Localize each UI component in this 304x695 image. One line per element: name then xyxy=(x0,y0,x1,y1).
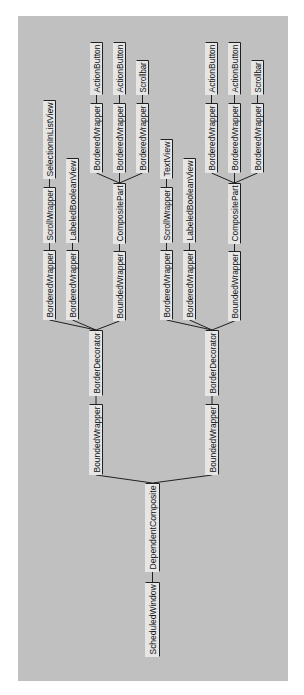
tree-node-scheduled-window[interactable]: ScheduledWindow xyxy=(145,582,160,657)
tree-node-composite-part[interactable]: CompositePart xyxy=(113,183,126,244)
tree-node-bounded-wrapper[interactable]: BoundedWrapper xyxy=(89,404,103,475)
tree-node-action-button[interactable]: ActionButton xyxy=(228,42,241,95)
node-label: BorderedWrapper xyxy=(229,106,240,171)
tree-node-action-button[interactable]: ActionButton xyxy=(113,42,126,95)
tree-node-bordered-wrapper[interactable]: BorderedWrapper xyxy=(251,103,264,173)
node-label: BoundedWrapper xyxy=(91,407,102,473)
node-label: Scrollbar xyxy=(252,63,263,93)
node-label: BorderedWrapper xyxy=(114,106,125,171)
node-label: BorderedWrapper xyxy=(91,106,102,171)
tree-node-action-button[interactable]: ActionButton xyxy=(205,42,218,95)
node-label: BoundedWrapper xyxy=(229,254,240,319)
tree-node-scroll-wrapper[interactable]: ScrollWrapper xyxy=(43,187,56,243)
tree-node-scrollbar[interactable]: Scrollbar xyxy=(136,60,149,95)
tree-node-border-decorator[interactable]: BorderDecorator xyxy=(89,330,103,396)
tree-node-scrollbar[interactable]: Scrollbar xyxy=(251,60,264,95)
node-label: BorderedWrapper xyxy=(161,253,172,318)
tree-node-bordered-wrapper[interactable]: BorderedWrapper xyxy=(90,103,103,173)
node-label: ActionButton xyxy=(206,45,217,93)
node-label: CompositePart xyxy=(229,185,240,241)
node-label: LabeledBooleanView xyxy=(67,160,78,240)
node-label: BorderedWrapper xyxy=(67,253,78,318)
tree-node-bordered-wrapper[interactable]: BorderedWrapper xyxy=(66,250,79,320)
tree-node-bounded-wrapper[interactable]: BoundedWrapper xyxy=(205,404,219,475)
node-label: BoundedWrapper xyxy=(207,407,218,473)
tree-node-labeled-boolean-view[interactable]: LabeledBooleanView xyxy=(66,158,79,243)
tree-node-labeled-boolean-view[interactable]: LabeledBooleanView xyxy=(183,158,196,243)
tree-node-bordered-wrapper[interactable]: BorderedWrapper xyxy=(205,103,218,173)
node-label: TextView xyxy=(161,141,172,176)
node-label: BoundedWrapper xyxy=(114,254,125,319)
tree-node-text-view[interactable]: TextView xyxy=(160,139,173,179)
node-label: LabeledBooleanView xyxy=(184,160,195,240)
node-label: CompositePart xyxy=(114,185,125,241)
tree-node-bounded-wrapper[interactable]: BoundedWrapper xyxy=(228,251,241,321)
tree-node-border-decorator[interactable]: BorderDecorator xyxy=(205,330,219,396)
tree-node-bounded-wrapper[interactable]: BoundedWrapper xyxy=(113,251,126,321)
tree-node-scroll-wrapper[interactable]: ScrollWrapper xyxy=(160,187,173,243)
node-label: ActionButton xyxy=(114,45,125,93)
node-label: SelectionInListView xyxy=(44,102,55,176)
tree-node-dependent-composite[interactable]: DependentComposite xyxy=(145,483,160,572)
tree-node-bordered-wrapper[interactable]: BorderedWrapper xyxy=(43,250,56,320)
tree-node-action-button[interactable]: ActionButton xyxy=(90,42,103,95)
node-label: ActionButton xyxy=(91,45,102,93)
tree-node-bordered-wrapper[interactable]: BorderedWrapper xyxy=(183,250,196,320)
node-label: ScrollWrapper xyxy=(44,190,55,241)
node-label: ScrollWrapper xyxy=(161,190,172,241)
node-label: ScheduledWindow xyxy=(147,584,158,654)
tree-node-bordered-wrapper[interactable]: BorderedWrapper xyxy=(228,103,241,173)
node-label: BorderedWrapper xyxy=(252,106,263,171)
tree-node-selection-in-list-view[interactable]: SelectionInListView xyxy=(43,100,56,179)
node-label: DependentComposite xyxy=(147,486,158,570)
node-label: Scrollbar xyxy=(137,63,148,93)
node-label: BorderedWrapper xyxy=(137,106,148,171)
node-label: BorderDecorator xyxy=(91,333,102,394)
tree-node-bordered-wrapper[interactable]: BorderedWrapper xyxy=(136,103,149,173)
node-label: BorderedWrapper xyxy=(206,106,217,171)
node-label: BorderedWrapper xyxy=(44,253,55,318)
tree-diagram-canvas: ScheduledWindowDependentCompositeBounded… xyxy=(0,0,304,695)
tree-node-bordered-wrapper[interactable]: BorderedWrapper xyxy=(113,103,126,173)
node-label: BorderedWrapper xyxy=(184,253,195,318)
node-label: BorderDecorator xyxy=(207,333,218,394)
tree-node-bordered-wrapper[interactable]: BorderedWrapper xyxy=(160,250,173,320)
node-label: ActionButton xyxy=(229,45,240,93)
tree-node-composite-part[interactable]: CompositePart xyxy=(228,183,241,244)
